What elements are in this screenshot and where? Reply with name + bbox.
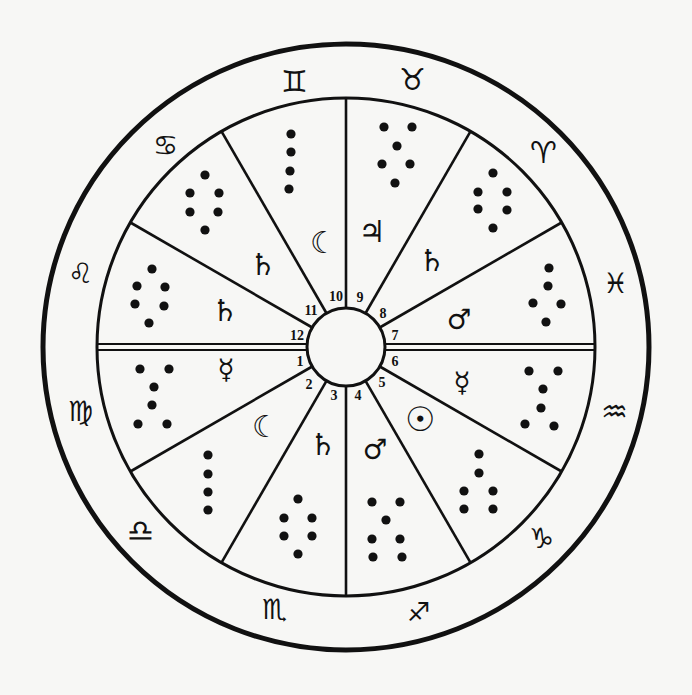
figure-dot <box>162 419 171 428</box>
mars-planet-icon: ♂︎ <box>362 433 387 466</box>
figure-dot <box>293 549 302 558</box>
figure-dot <box>459 504 468 513</box>
mercury-planet-icon: ☿︎ <box>453 366 470 399</box>
house-number: 11 <box>304 303 317 318</box>
taurus-sign-icon: ♉︎ <box>399 62 426 97</box>
figure-dot <box>377 159 386 168</box>
figure-dot <box>130 299 139 308</box>
geomantic-figure-house-9 <box>377 122 416 187</box>
center-hub <box>307 308 385 386</box>
geomantic-figure-house-4 <box>367 497 406 561</box>
figure-dot <box>502 187 511 196</box>
chart-frame <box>43 44 649 650</box>
figure-dot <box>544 263 553 272</box>
house-number: 6 <box>392 354 399 369</box>
figure-dot <box>556 299 565 308</box>
figure-dot <box>159 301 168 310</box>
figure-dot <box>538 384 547 393</box>
figure-dot <box>279 531 288 540</box>
mercury-planet-icon: ☿︎ <box>217 353 234 386</box>
house-number: 4 <box>355 388 362 403</box>
aries-sign-icon: ♈︎ <box>530 135 557 170</box>
house-number: 9 <box>357 290 364 305</box>
figure-dot <box>407 122 416 131</box>
geomantic-figure-house-8 <box>473 168 511 232</box>
figure-dot <box>307 531 316 540</box>
figure-dot <box>160 282 169 291</box>
figure-dot <box>502 205 511 214</box>
figure-dot <box>553 366 562 375</box>
figure-dot <box>200 170 209 179</box>
figure-dot <box>200 225 209 234</box>
figure-dot <box>164 364 173 373</box>
figure-dot <box>147 400 156 409</box>
sun-planet-icon: ☉︎ <box>405 399 435 439</box>
figure-dot <box>524 366 533 375</box>
cancer-sign-icon: ♋︎ <box>153 129 178 162</box>
figure-dot <box>528 298 537 307</box>
figure-dot <box>549 421 558 430</box>
figure-dot <box>379 122 388 131</box>
figure-dot <box>536 403 545 412</box>
figure-dot <box>203 469 212 478</box>
figure-dot <box>132 281 141 290</box>
geomantic-figure-house-11 <box>185 170 223 234</box>
figure-dot <box>149 382 158 391</box>
house-number: 12 <box>290 328 304 343</box>
house-number: 10 <box>329 289 343 304</box>
figure-dot <box>286 129 295 138</box>
figure-dot <box>279 513 288 522</box>
saturn-planet-icon: ♄︎ <box>419 243 446 278</box>
house-number: 2 <box>306 377 313 392</box>
figure-dot <box>390 178 399 187</box>
astrological-chart: ♊︎♉︎♋︎♈︎♌︎♓︎♍︎♒︎♎︎♑︎♏︎♐︎ ☾︎♃︎♄︎♂︎☿︎☉︎♂︎♄… <box>0 0 692 695</box>
figure-dot <box>368 552 377 561</box>
libra-sign-icon: ♎︎ <box>127 513 154 548</box>
figure-dot <box>473 204 482 213</box>
house-number: 1 <box>297 354 304 369</box>
geomantic-figure-house-3 <box>279 494 316 558</box>
figure-dot <box>395 497 404 506</box>
figure-dot <box>284 184 293 193</box>
figure-dot <box>488 486 497 495</box>
figure-dot <box>543 281 552 290</box>
moon-planet-icon: ☾︎ <box>310 225 337 260</box>
figure-dot <box>395 534 404 543</box>
geomantic-figure-house-7 <box>528 263 565 326</box>
figure-dot <box>285 166 294 175</box>
house-cusp-line <box>222 131 327 313</box>
sagittarius-sign-icon: ♐︎ <box>407 597 430 627</box>
virgo-sign-icon: ♍︎ <box>68 395 93 428</box>
figure-dot <box>405 159 414 168</box>
figure-dot <box>488 223 497 232</box>
geomantic-figure-house-6 <box>520 366 562 430</box>
saturn-planet-icon: ♄︎ <box>212 293 239 328</box>
figure-dot <box>185 207 194 216</box>
figure-dot <box>135 364 144 373</box>
figure-dot <box>474 449 483 458</box>
aquarius-sign-icon: ♒︎ <box>601 394 628 429</box>
figure-dot <box>459 486 468 495</box>
gemini-sign-icon: ♊︎ <box>281 64 308 99</box>
moon-planet-icon: ☾︎ <box>252 409 279 444</box>
geomantic-figure-house-2 <box>203 450 212 514</box>
figure-dot <box>381 515 390 524</box>
saturn-planet-icon: ♄︎ <box>310 427 337 462</box>
figure-dot <box>488 168 497 177</box>
figure-dot <box>185 188 194 197</box>
geomantic-figure-house-5 <box>459 449 497 513</box>
figure-dot <box>213 207 222 216</box>
capricorn-sign-icon: ♑︎ <box>529 522 554 555</box>
figure-dot <box>133 419 142 428</box>
mars-planet-icon: ♂︎ <box>446 303 471 336</box>
figure-dot <box>488 504 497 513</box>
scorpio-sign-icon: ♏︎ <box>262 593 287 626</box>
figure-dot <box>307 513 316 522</box>
figure-dot <box>367 497 376 506</box>
geomantic-figure-house-10 <box>284 129 295 193</box>
figure-dot <box>203 487 212 496</box>
figure-dot <box>474 468 483 477</box>
figure-dot <box>203 450 212 459</box>
house-number: 7 <box>392 328 399 343</box>
leo-sign-icon: ♌︎ <box>68 257 93 290</box>
